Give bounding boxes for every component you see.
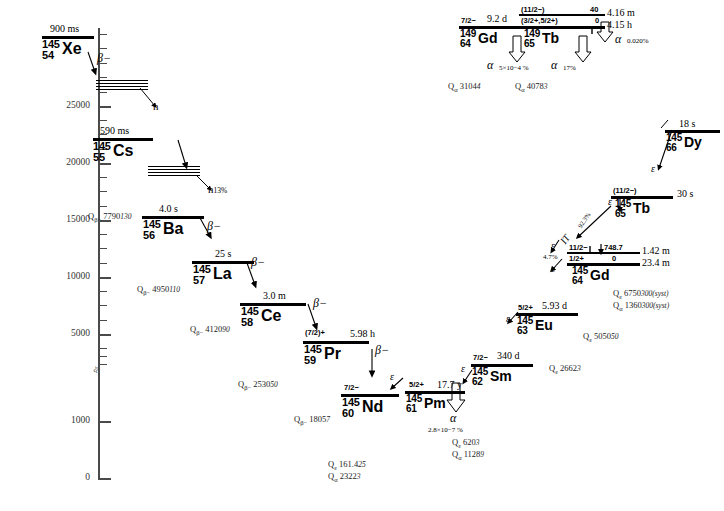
nuclide-dy-145[interactable]: 145 66 Dy bbox=[666, 133, 682, 153]
qvalue-sm-uncertainty: 3 bbox=[577, 364, 581, 373]
decay-label-tb149-alpha-gs: α bbox=[551, 58, 557, 73]
spin-parity-pr: (7/2)+ bbox=[305, 328, 325, 337]
qvalue-nd-eps-value: 161.4 bbox=[339, 459, 358, 469]
halflife-la: 25 s bbox=[215, 248, 231, 259]
nuclide-xe-145[interactable]: 145 54 Xe bbox=[42, 39, 60, 61]
qvalue-sm-value: 2662 bbox=[560, 363, 577, 373]
qvalue-nd-eps-subscript: ε bbox=[334, 464, 337, 471]
qvalue-pm-alpha: Qα 11289 bbox=[452, 449, 484, 461]
neutron-label-cs: n13% bbox=[208, 183, 227, 195]
nuclide-eu-145[interactable]: 145 63 Eu bbox=[517, 316, 533, 336]
qvalue-tb149: Qα 40783 bbox=[515, 81, 547, 93]
neutron-branch-percent: 13% bbox=[214, 186, 228, 195]
nuclide-sm-145[interactable]: 145 62 Sm bbox=[472, 367, 488, 387]
halflife-dy: 18 s bbox=[679, 118, 695, 129]
halflife-tb149-isomer: 4.16 m bbox=[607, 7, 635, 18]
halflife-tb149-gs: 4.15 h bbox=[607, 19, 632, 30]
nuclide-tb-145[interactable]: 145 65 Tb bbox=[615, 199, 631, 219]
qvalue-gd149: Qα 31044 bbox=[448, 81, 480, 93]
qvalue-tb149-value: 4078 bbox=[527, 81, 544, 91]
spin-parity-sm: 7/2− bbox=[473, 353, 488, 362]
halflife-sm: 340 d bbox=[497, 350, 520, 361]
y-tick-label-1000: 1000 bbox=[44, 415, 90, 425]
spin-parity-tb: (11/2−) bbox=[613, 186, 637, 195]
nuclide-gd-145[interactable]: 145 64 Gd bbox=[572, 266, 588, 286]
y-minor-tick bbox=[98, 34, 107, 35]
qvalue-nd-epsilon: Qε 161.425 bbox=[328, 459, 366, 471]
nuclide-pr-145[interactable]: 145 59 Pr bbox=[304, 344, 322, 366]
y-tick-25000 bbox=[98, 106, 111, 108]
qvalue-gd-alpha: Qα 1360300(syst) bbox=[613, 300, 669, 312]
decay-label-pm-alpha: α bbox=[450, 411, 456, 426]
element-symbol-pm: Pm bbox=[424, 396, 446, 410]
halflife-pm: 17.7 y bbox=[437, 379, 462, 390]
qvalue-pm-eps-subscript: ε bbox=[458, 442, 461, 449]
nuclide-pm-145[interactable]: 145 61 Pm bbox=[406, 394, 422, 414]
qvalue-gd-eps-value: 6750 bbox=[624, 288, 641, 298]
halflife-eu: 5.93 d bbox=[542, 300, 567, 311]
nuclide-cs-145[interactable]: 145 55 Cs bbox=[93, 141, 111, 163]
decay-label-la-beta: β− bbox=[251, 255, 265, 270]
qvalue-ce: Qβ− 412090 bbox=[190, 324, 230, 336]
element-symbol-cs: Cs bbox=[113, 143, 133, 159]
y-minor-tick bbox=[98, 120, 107, 121]
y-minor-tick bbox=[98, 263, 107, 264]
atomic-number-ce: 58 bbox=[241, 317, 259, 328]
element-symbol-dy: Dy bbox=[684, 135, 702, 149]
atomic-number-dy: 66 bbox=[666, 143, 682, 153]
branch-percent-tb-it: 92.3% bbox=[576, 211, 591, 229]
element-symbol-tb: Tb bbox=[633, 201, 650, 215]
y-minor-tick bbox=[98, 92, 107, 93]
element-symbol-sm: Sm bbox=[490, 369, 512, 383]
nuclide-la-145[interactable]: 145 57 La bbox=[193, 264, 211, 286]
atomic-number-tb149: 65 bbox=[524, 39, 540, 49]
atomic-number-gd149: 64 bbox=[460, 39, 476, 49]
qvalue-eu-value: 5050 bbox=[594, 331, 611, 341]
halflife-cs: 590 ms bbox=[100, 125, 129, 136]
y-tick-label-20000: 20000 bbox=[44, 157, 90, 167]
element-symbol-pr: Pr bbox=[324, 346, 341, 362]
atomic-number-sm: 62 bbox=[472, 377, 488, 387]
nuclide-ba-145[interactable]: 145 56 Ba bbox=[143, 219, 161, 241]
qvalue-ba-value: 7790 bbox=[103, 211, 120, 221]
element-symbol-nd: Nd bbox=[362, 399, 383, 415]
y-tick-20000 bbox=[98, 163, 111, 165]
nuclide-nd-145[interactable]: 145 60 Nd bbox=[342, 397, 360, 419]
element-symbol-gd: Gd bbox=[590, 268, 609, 282]
qvalue-eu: Qε 505050 bbox=[583, 331, 619, 343]
decay-label-tb149-alpha-isomer: α bbox=[615, 32, 621, 47]
qvalue-la: Qβ− 4950110 bbox=[137, 284, 180, 296]
y-tick-label-25000: 25000 bbox=[44, 100, 90, 110]
atomic-number-ba: 56 bbox=[143, 230, 161, 241]
qvalue-pr-uncertainty: 50 bbox=[270, 380, 278, 389]
nuclide-gd-149[interactable]: 149 64 Gd bbox=[460, 29, 476, 49]
qvalue-nd-subscript: β− bbox=[300, 419, 307, 426]
element-symbol-la: La bbox=[213, 266, 232, 282]
atomic-number-cs: 55 bbox=[93, 152, 111, 163]
nuclide-ce-145[interactable]: 145 58 Ce bbox=[241, 306, 259, 328]
y-tick-5000 bbox=[98, 334, 111, 336]
y-tick-label-15000: 15000 bbox=[44, 214, 90, 224]
qvalue-ce-uncertainty: 90 bbox=[222, 325, 230, 334]
branch-percent-tb149-alpha-gs: 17% bbox=[563, 64, 576, 72]
level-energy-tb149-gs: 0 bbox=[595, 16, 599, 25]
decay-label-gd-epsilon-gs: ε bbox=[551, 263, 555, 274]
decay-label-ba-beta: β− bbox=[207, 219, 221, 234]
spin-parity-gd149: 7/2− bbox=[461, 16, 476, 25]
halflife-pr: 5.98 h bbox=[350, 328, 375, 339]
decay-label-xe-beta: β− bbox=[97, 51, 111, 66]
qvalue-nd-beta: Qβ− 18057 bbox=[294, 414, 330, 426]
element-symbol-eu: Eu bbox=[535, 318, 553, 332]
decay-label-gd-epsilon-isomer: ε bbox=[551, 240, 555, 251]
spin-parity-gd-isomer: 11/2− bbox=[569, 243, 588, 252]
nuclide-tb-149[interactable]: 149 65 Tb bbox=[524, 29, 540, 49]
atomic-number-tb: 65 bbox=[615, 209, 631, 219]
decay-label-sm-epsilon: ε bbox=[461, 363, 465, 374]
qvalue-nd-alpha-subscript: α bbox=[334, 476, 337, 483]
qvalue-pm-epsilon: Qε 6203 bbox=[452, 437, 480, 449]
y-tick-label-5000: 5000 bbox=[44, 328, 90, 338]
qvalue-nd-value: 1805 bbox=[309, 414, 326, 424]
y-axis-line bbox=[98, 28, 100, 478]
atomic-number-pr: 59 bbox=[304, 355, 322, 366]
y-tick-label-10000: 10000 bbox=[44, 271, 90, 281]
